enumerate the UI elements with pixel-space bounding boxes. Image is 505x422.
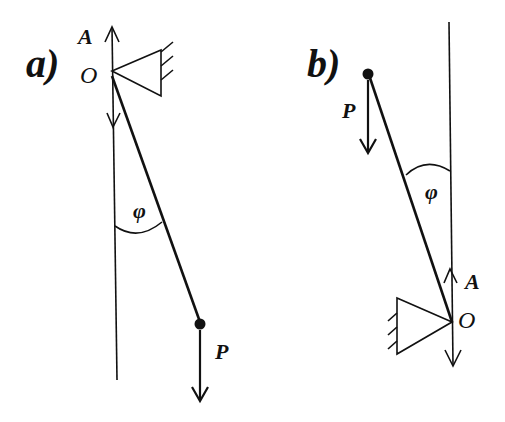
pivot-label-b: O: [458, 307, 475, 333]
hatch-a-1: [161, 42, 173, 52]
figure-a: a) A O φ P: [26, 24, 229, 401]
angle-label-a: φ: [133, 198, 146, 223]
angle-arc-a: [115, 222, 162, 233]
hatch-b-2: [388, 327, 397, 335]
axis-label-b: A: [463, 269, 480, 294]
hatch-b-1: [388, 313, 397, 321]
angle-arc-b: [406, 164, 450, 175]
hinge-support-a: [112, 50, 161, 96]
hinge-support-b: [397, 298, 452, 354]
angle-label-b: φ: [425, 179, 438, 204]
pendulum-diagrams: a) A O φ P b) A: [0, 0, 505, 422]
pendulum-bob-a: [195, 319, 206, 330]
pendulum-rod-a: [112, 76, 200, 322]
pendulum-rod-b: [369, 75, 452, 322]
hatch-a-2: [161, 56, 173, 66]
hatch-b-3: [388, 341, 397, 349]
panel-label-a: a): [26, 41, 59, 86]
pendulum-bob-b: [363, 69, 374, 80]
pivot-label-a: O: [80, 62, 97, 88]
panel-label-b: b): [307, 41, 340, 86]
hatch-a-3: [161, 70, 173, 80]
axis-label-a: A: [76, 24, 93, 49]
axis-arrow-up-icon: [444, 269, 457, 283]
force-label-b: P: [341, 98, 356, 123]
figure-b: b) A O φ P: [307, 22, 480, 366]
force-label-a: P: [214, 339, 229, 364]
